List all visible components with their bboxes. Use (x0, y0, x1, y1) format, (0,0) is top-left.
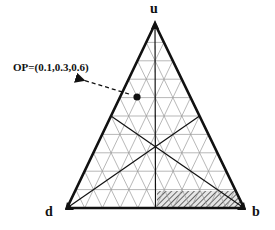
point-label: OP=(0.1,0.3,0.6) (13, 61, 89, 73)
vertex-label-b: b (252, 204, 260, 220)
vertex-label-d: d (45, 204, 53, 220)
ternary-diagram (0, 0, 275, 230)
vertex-label-u: u (150, 1, 158, 17)
op-point (133, 93, 140, 100)
median-lines (67, 24, 244, 208)
op-arrow (83, 80, 129, 94)
